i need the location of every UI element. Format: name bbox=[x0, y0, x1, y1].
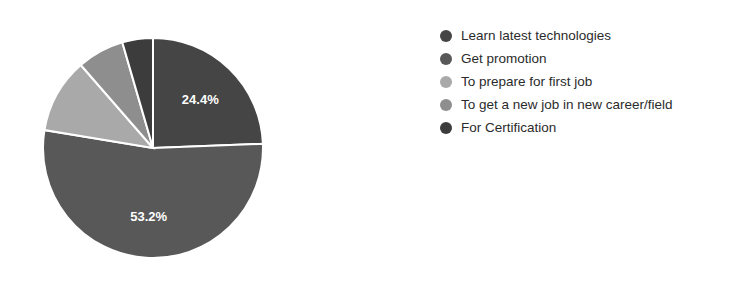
legend-color-swatch-icon bbox=[440, 99, 452, 111]
legend-color-swatch-icon bbox=[440, 53, 452, 65]
legend-item-label: To prepare for first job bbox=[461, 75, 592, 89]
legend-item[interactable]: To prepare for first job bbox=[440, 70, 720, 93]
legend-item[interactable]: For Certification bbox=[440, 116, 720, 139]
legend-item-label: For Certification bbox=[461, 121, 556, 135]
legend-item-label: Learn latest technologies bbox=[461, 29, 611, 43]
legend-item-label: To get a new job in new career/field bbox=[461, 98, 673, 112]
pie-chart-plot-area: 24.4%53.2% bbox=[40, 24, 272, 274]
legend-item[interactable]: To get a new job in new career/field bbox=[440, 93, 720, 116]
pie-slice[interactable] bbox=[43, 130, 263, 258]
pie-slice-group bbox=[43, 38, 263, 258]
pie-slice-value-label: 24.4% bbox=[182, 92, 219, 107]
pie-chart-svg: 24.4%53.2% bbox=[40, 24, 272, 274]
legend-item-label: Get promotion bbox=[461, 52, 547, 66]
pie-chart-figure: 24.4%53.2% Learn latest technologiesGet … bbox=[0, 0, 730, 293]
legend-item[interactable]: Learn latest technologies bbox=[440, 24, 720, 47]
chart-legend: Learn latest technologiesGet promotionTo… bbox=[440, 24, 720, 139]
legend-color-swatch-icon bbox=[440, 122, 452, 134]
pie-slice-value-label: 53.2% bbox=[130, 209, 167, 224]
legend-color-swatch-icon bbox=[440, 76, 452, 88]
legend-item[interactable]: Get promotion bbox=[440, 47, 720, 70]
legend-color-swatch-icon bbox=[440, 30, 452, 42]
